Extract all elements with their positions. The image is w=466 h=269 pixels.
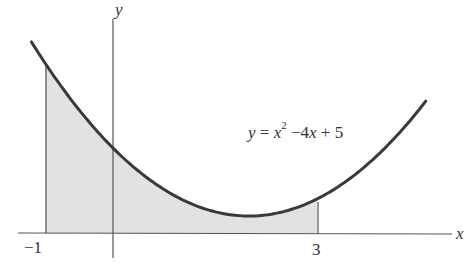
tick-label-3: 3 bbox=[312, 241, 321, 258]
eq-term-x: x bbox=[309, 123, 317, 142]
eq-equals: = bbox=[256, 123, 274, 142]
eq-term-a: −4 bbox=[287, 123, 309, 142]
graph-canvas bbox=[0, 0, 466, 269]
x-axis bbox=[18, 233, 452, 234]
equation-annotation: y = x2 −4x + 5 bbox=[248, 121, 343, 143]
shaded-region bbox=[45, 63, 317, 233]
eq-exponent: 2 bbox=[281, 119, 287, 131]
tick-label-neg1: −1 bbox=[24, 239, 42, 256]
eq-term-b: + 5 bbox=[317, 123, 344, 142]
y-axis-label: y bbox=[115, 1, 123, 18]
eq-y: y bbox=[248, 123, 256, 142]
x-axis-label: x bbox=[456, 225, 464, 242]
